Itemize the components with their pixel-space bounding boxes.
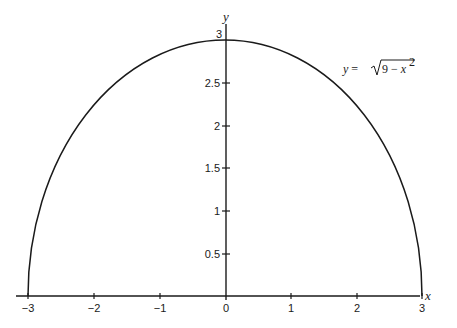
y-tick-label: 0.5: [205, 248, 220, 260]
svg-text:9 − x: 9 − x: [382, 62, 407, 76]
semicircle-plot: −3 −2 −1 0 1 2 3 0.5 1 1.5 2 2.5 3 y x y…: [0, 0, 457, 328]
y-tick-labels: 0.5 1 1.5 2 2.5 3: [205, 28, 222, 260]
y-tick-label: 2.5: [205, 77, 220, 89]
y-tick-label: 1: [214, 205, 220, 217]
x-tick-label: 1: [288, 302, 294, 314]
svg-text:2: 2: [409, 55, 415, 69]
y-axis-label: y: [221, 9, 229, 24]
y-tick-label: 3: [216, 28, 222, 40]
y-tick-label: 1.5: [205, 162, 220, 174]
x-axis-label: x: [424, 288, 431, 303]
x-tick-label: 2: [354, 302, 360, 314]
equation-annotation: y = 9 − x 2: [342, 55, 415, 76]
svg-text:y =: y =: [342, 62, 358, 76]
x-tick-label: −2: [88, 302, 101, 314]
y-tick-label: 2: [214, 120, 220, 132]
x-tick-label: 3: [419, 302, 425, 314]
x-tick-label: −1: [154, 302, 167, 314]
x-tick-label: 0: [223, 302, 229, 314]
x-tick-label: −3: [22, 302, 35, 314]
x-tick-labels: −3 −2 −1 0 1 2 3: [22, 302, 425, 314]
